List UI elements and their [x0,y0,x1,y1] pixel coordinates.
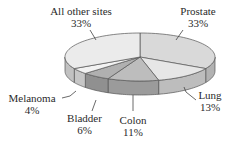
label-lung: Lung13% [190,89,230,113]
label-melanoma: Melanoma4% [4,92,60,116]
label-bladder: Bladder6% [62,112,107,136]
leader-line [92,100,96,111]
label-colon: Colon11% [113,114,153,138]
label-all-other-sites: All other sites33% [36,5,126,29]
leader-line [62,91,76,98]
label-prostate: Prostate33% [163,5,233,29]
